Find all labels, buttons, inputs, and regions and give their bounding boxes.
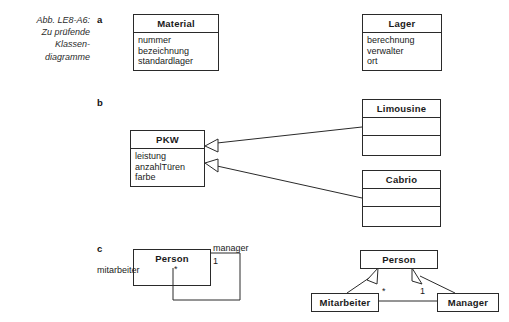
class-box-person-right: Person [360, 250, 438, 269]
class-name-limousine: Limousine [363, 100, 440, 118]
class-body-person-left [134, 267, 210, 285]
class-name-person-right: Person [361, 251, 437, 268]
class-box-cabrio: Cabrio [362, 170, 441, 227]
class-name-person-left: Person [134, 250, 210, 267]
generalization-arrowhead-manager [412, 268, 422, 284]
class-box-person-left: Person [133, 249, 211, 286]
association-multiplicity-manager: 1 [213, 256, 218, 266]
class-box-manager: Manager [437, 293, 499, 312]
association-role-manager: manager [213, 243, 249, 253]
class-box-material: Material nummer bezeichnung standardlage… [133, 14, 219, 71]
caption-line-4: diagramme [4, 51, 90, 63]
generalization-line-manager [420, 276, 455, 293]
class-name-cabrio: Cabrio [363, 171, 440, 189]
figure-caption: Abb. LE8-A6: Zu prüfende Klassen- diagra… [4, 14, 90, 63]
attribute-item: anzahlTüren [135, 162, 200, 173]
class-attributes-lager: berechnung verwalter ort [363, 33, 441, 70]
class-attributes-material: nummer bezeichnung standardlager [134, 33, 218, 70]
class-name-pkw: PKW [131, 131, 204, 149]
section-label-c: c [97, 243, 102, 254]
association-role-mitarbeiter: mitarbeiter [97, 265, 140, 275]
class-box-mitarbeiter: Mitarbeiter [311, 293, 379, 312]
generalization-line-cabrio [217, 166, 362, 198]
association-multiplicity-manager-right: 1 [420, 286, 425, 296]
uml-class-diagram-figure: Abb. LE8-A6: Zu prüfende Klassen- diagra… [0, 0, 509, 322]
class-attributes-pkw: leistung anzahlTüren farbe [131, 149, 204, 186]
generalization-arrowhead-limousine [205, 139, 218, 152]
class-operations-limousine [363, 136, 440, 155]
generalization-arrowhead-cabrio [205, 159, 218, 172]
attribute-item: leistung [135, 151, 200, 162]
attribute-item: standardlager [138, 56, 214, 67]
caption-line-3: Klassen- [4, 38, 90, 50]
class-box-limousine: Limousine [362, 99, 441, 156]
generalization-arrowhead-mitarbeiter [367, 268, 378, 284]
generalization-line-mitarbeiter [347, 276, 372, 293]
class-name-lager: Lager [363, 15, 441, 33]
attribute-item: verwalter [367, 46, 437, 57]
generalization-line-limousine [217, 127, 362, 143]
class-name-material: Material [134, 15, 218, 33]
caption-line-2: Zu prüfende [4, 26, 90, 38]
section-label-b: b [97, 97, 103, 108]
class-box-lager: Lager berechnung verwalter ort [362, 14, 442, 71]
caption-line-1: Abb. LE8-A6: [4, 14, 90, 26]
section-label-a: a [97, 14, 102, 25]
class-name-mitarbeiter: Mitarbeiter [312, 294, 378, 311]
class-attributes-cabrio [363, 189, 440, 207]
association-multiplicity-mitarbeiter-right: * [382, 286, 386, 296]
attribute-item: ort [367, 56, 437, 67]
attribute-item: bezeichnung [138, 46, 214, 57]
attribute-item: berechnung [367, 35, 437, 46]
class-operations-cabrio [363, 207, 440, 226]
class-name-manager: Manager [438, 294, 498, 311]
class-attributes-limousine [363, 118, 440, 136]
class-box-pkw: PKW leistung anzahlTüren farbe [130, 130, 205, 187]
attribute-item: nummer [138, 35, 214, 46]
association-multiplicity-mitarbeiter: * [174, 264, 178, 274]
attribute-item: farbe [135, 172, 200, 183]
